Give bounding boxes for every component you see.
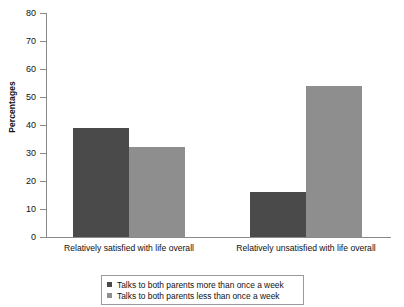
y-axis-tick-label: 30	[2, 149, 36, 158]
y-axis-tick-label: 10	[2, 205, 36, 214]
chart-legend: Talks to both parents more than once a w…	[101, 275, 304, 305]
bar-0-0	[73, 128, 129, 237]
x-axis-category-label-0: Relatively satisfied with life overall	[29, 243, 229, 253]
legend-swatch-icon-light	[107, 293, 112, 298]
y-axis-tick-label: 80	[2, 9, 36, 18]
y-axis-tick-label: 40	[2, 121, 36, 130]
legend-item-0: Talks to both parents more than once a w…	[107, 279, 298, 290]
y-axis-tick-label: 70	[2, 37, 36, 46]
bar-1-0	[250, 192, 306, 237]
legend-swatch-icon-dark	[107, 282, 112, 287]
y-axis-tick-label: 0	[2, 233, 36, 242]
y-axis-tick-label: 50	[2, 93, 36, 102]
bar-chart: Percentages 01020304050607080 Relatively…	[0, 0, 404, 307]
bar-1-1	[306, 86, 362, 237]
y-axis-tick-label: 20	[2, 177, 36, 186]
y-axis-tick-label: 60	[2, 65, 36, 74]
x-axis-line	[46, 237, 391, 238]
legend-item-1: Talks to both parents less than once a w…	[107, 290, 298, 301]
legend-label-0: Talks to both parents more than once a w…	[117, 280, 284, 290]
legend-label-1: Talks to both parents less than once a w…	[117, 291, 279, 301]
x-axis-category-label-1: Relatively unsatisfied with life overall	[206, 243, 404, 253]
bar-0-1	[129, 147, 185, 237]
bars-layer	[46, 13, 391, 237]
